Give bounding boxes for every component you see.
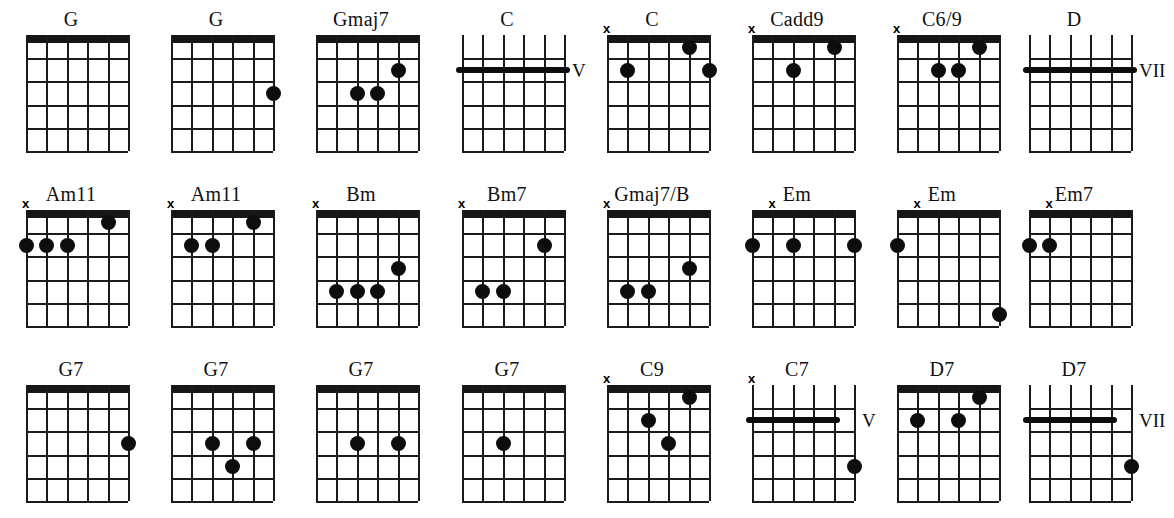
- fret-line: [171, 151, 273, 153]
- fret-line: [171, 478, 273, 480]
- fret-line: [26, 81, 128, 83]
- string-line: [1029, 385, 1031, 501]
- fretboard-grid: [26, 210, 128, 326]
- chord-diagram: D7: [890, 358, 1036, 518]
- fret-line: [462, 478, 564, 480]
- fret-line: [316, 151, 418, 153]
- string-line: [917, 35, 919, 151]
- mute-string-marker: x: [768, 197, 775, 210]
- chord-name-label: Bm7: [455, 183, 559, 205]
- fret-line: [316, 431, 418, 433]
- finger-dot: [786, 238, 801, 253]
- finger-dot: [496, 284, 511, 299]
- fret-line: [462, 256, 564, 258]
- string-line: [482, 385, 484, 501]
- finger-dot: [246, 436, 261, 451]
- fretboard-grid: [316, 210, 418, 326]
- fret-line: [462, 58, 564, 60]
- mute-string-marker: x: [893, 22, 900, 35]
- chord-name-label: C: [455, 8, 559, 30]
- string-line: [67, 210, 69, 326]
- chord-name-label: Em: [745, 183, 849, 205]
- finger-dot: [641, 284, 656, 299]
- fret-line: [171, 326, 273, 328]
- fret-line: [752, 233, 854, 235]
- fret-line: [26, 256, 128, 258]
- chord-diagram: G7: [19, 358, 165, 518]
- fret-line: [897, 81, 999, 83]
- string-line: [772, 210, 774, 326]
- string-line: [418, 210, 420, 326]
- chord-diagram: Cadd9x: [745, 8, 891, 178]
- fret-line: [1029, 256, 1131, 258]
- string-line: [772, 35, 774, 151]
- chord-diagram: Em7x: [1022, 183, 1168, 353]
- string-line: [26, 35, 28, 151]
- fret-line: [316, 455, 418, 457]
- barre-bar: [746, 417, 840, 423]
- fret-line: [1029, 81, 1131, 83]
- fret-line: [462, 326, 564, 328]
- nut-bar: [171, 385, 273, 393]
- string-line: [336, 35, 338, 151]
- string-line: [813, 210, 815, 326]
- finger-dot: [205, 436, 220, 451]
- fret-line: [897, 233, 999, 235]
- string-line: [462, 385, 464, 501]
- string-line: [87, 210, 89, 326]
- chord-name-label: G7: [309, 358, 413, 380]
- string-line: [917, 385, 919, 501]
- chord-name-label: G7: [455, 358, 559, 380]
- chord-name-label: Bm: [309, 183, 413, 205]
- string-line: [462, 210, 464, 326]
- string-line: [834, 385, 836, 501]
- chord-diagram: C9x: [600, 358, 746, 518]
- finger-dot: [370, 86, 385, 101]
- fret-line: [1029, 233, 1131, 235]
- fretboard-grid: [607, 210, 709, 326]
- fret-line: [171, 303, 273, 305]
- fretboard-grid: [607, 35, 709, 151]
- fretboard-grid: [462, 210, 564, 326]
- mute-string-marker: x: [1045, 197, 1052, 210]
- string-line: [316, 210, 318, 326]
- fret-line: [752, 431, 854, 433]
- fret-line: [752, 58, 854, 60]
- fret-line: [897, 128, 999, 130]
- string-line: [523, 210, 525, 326]
- string-line: [1029, 210, 1031, 326]
- finger-dot: [225, 459, 240, 474]
- chord-name-label: G7: [19, 358, 123, 380]
- string-line: [564, 35, 566, 151]
- finger-dot: [266, 86, 281, 101]
- chord-diagram: D7VII: [1022, 358, 1168, 518]
- chord-diagram: Am11x: [164, 183, 310, 353]
- finger-dot: [391, 261, 406, 276]
- fret-line: [607, 455, 709, 457]
- fret-line: [171, 128, 273, 130]
- fret-line: [897, 280, 999, 282]
- fret-line: [316, 81, 418, 83]
- string-line: [1070, 210, 1072, 326]
- finger-dot: [121, 436, 136, 451]
- string-line: [627, 210, 629, 326]
- string-line: [648, 210, 650, 326]
- chord-name-label: Em: [890, 183, 994, 205]
- string-line: [87, 385, 89, 501]
- fret-line: [462, 431, 564, 433]
- string-line: [979, 210, 981, 326]
- string-line: [1090, 210, 1092, 326]
- finger-dot: [847, 238, 862, 253]
- string-line: [462, 35, 464, 151]
- fret-line: [607, 256, 709, 258]
- fret-line: [316, 105, 418, 107]
- string-line: [999, 35, 1001, 151]
- nut-bar: [897, 210, 999, 218]
- finger-dot: [847, 459, 862, 474]
- string-line: [938, 35, 940, 151]
- fret-line: [171, 455, 273, 457]
- fretboard-grid: [171, 210, 273, 326]
- barre-bar: [456, 67, 570, 73]
- fret-line: [171, 501, 273, 503]
- string-line: [938, 385, 940, 501]
